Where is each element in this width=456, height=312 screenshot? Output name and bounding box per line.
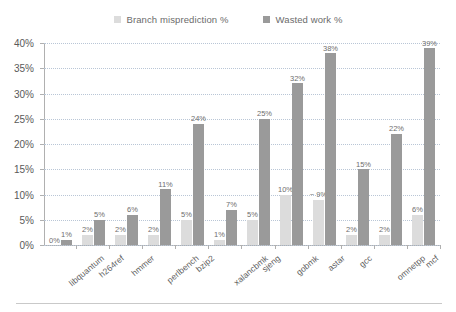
bar-branch-misprediction[interactable]: 6%	[412, 215, 423, 245]
bar-wasted-work[interactable]: 25%	[259, 119, 270, 245]
bar-value-label: 6%	[412, 206, 423, 214]
bar-series-container: 0%1%2%5%2%6%2%11%5%24%1%7%5%25%10%32%~ 9…	[44, 43, 440, 245]
bar-group: 0%1%	[44, 43, 77, 245]
bar-group: 10%32%	[275, 43, 308, 245]
y-axis-tick-label: 20%	[14, 139, 34, 150]
bar-wasted-work[interactable]: 38%	[325, 53, 336, 245]
bar-value-label: 11%	[158, 181, 172, 189]
y-axis-tick-label: 40%	[14, 38, 34, 49]
bar-group: 2%11%	[143, 43, 176, 245]
bar-wasted-work[interactable]: 7%	[226, 210, 237, 245]
bar-value-label: 2%	[148, 226, 159, 234]
y-axis-tick-label: 15%	[14, 164, 34, 175]
bar-value-label: 5%	[94, 211, 105, 219]
y-axis-tick-label: 30%	[14, 88, 34, 99]
bar-chart: Branch misprediction % Wasted work % 0%5…	[0, 0, 456, 312]
bar-group: 5%24%	[176, 43, 209, 245]
bar-value-label: 2%	[115, 226, 126, 234]
bar-group: ~ 9%38%	[308, 43, 341, 245]
bar-wasted-work[interactable]: 5%	[94, 220, 105, 245]
bar-wasted-work[interactable]: 24%	[193, 124, 204, 245]
x-axis-label-cell: libquantum	[44, 250, 77, 306]
bar-group: 6%39%	[407, 43, 440, 245]
bar-branch-misprediction[interactable]: ~ 9%	[313, 200, 324, 245]
bar-wasted-work[interactable]: 22%	[391, 134, 402, 245]
x-axis-label-cell: omnetpp	[375, 250, 408, 306]
x-axis-label-cell: mcf	[408, 250, 441, 306]
x-axis-label-cell: bzip2	[176, 250, 209, 306]
x-axis-label-cell: perlbench	[143, 250, 176, 306]
plot-area: 0%1%2%5%2%6%2%11%5%24%1%7%5%25%10%32%~ 9…	[44, 43, 440, 245]
bar-branch-misprediction[interactable]: 5%	[181, 220, 192, 245]
bar-branch-misprediction[interactable]: 2%	[148, 235, 159, 245]
y-axis-labels: 0%5%10%15%20%25%30%35%40%	[0, 43, 40, 245]
bottom-divider	[16, 303, 442, 304]
x-axis-label-cell: gobmk	[276, 250, 309, 306]
bar-group: 2%5%	[77, 43, 110, 245]
x-axis-label-cell: gcc	[342, 250, 375, 306]
x-axis-category-label: mcf	[424, 253, 441, 270]
bar-group: 2%15%	[341, 43, 374, 245]
y-axis-tick-label: 5%	[20, 214, 34, 225]
bar-value-label: 25%	[257, 110, 272, 118]
bar-group: 2%22%	[374, 43, 407, 245]
bar-value-label: 39%	[422, 40, 437, 48]
legend-label-branch-misprediction: Branch misprediction %	[127, 14, 229, 25]
bar-value-label: 15%	[356, 161, 371, 169]
bar-value-label: 2%	[346, 226, 357, 234]
bar-branch-misprediction[interactable]: 2%	[379, 235, 390, 245]
bar-wasted-work[interactable]: 11%	[160, 189, 171, 245]
legend-label-wasted-work: Wasted work %	[276, 14, 343, 25]
bar-branch-misprediction[interactable]: 2%	[82, 235, 93, 245]
bar-value-label: 7%	[226, 201, 237, 209]
x-axis-label-cell: hmmer	[110, 250, 143, 306]
bar-value-label: 1%	[214, 231, 225, 239]
bar-wasted-work[interactable]: 32%	[292, 83, 303, 245]
bar-value-label: 2%	[82, 226, 93, 234]
x-axis-category-label: gcc	[357, 253, 374, 269]
y-axis-tick-label: 0%	[20, 240, 34, 251]
bar-branch-misprediction[interactable]: 10%	[280, 195, 291, 246]
x-axis-label-cell: h264ref	[77, 250, 110, 306]
bar-value-label: 5%	[181, 211, 192, 219]
bar-wasted-work[interactable]: 6%	[127, 215, 138, 245]
bar-group: 2%6%	[110, 43, 143, 245]
bar-branch-misprediction[interactable]: 5%	[247, 220, 258, 245]
y-axis-tick-label: 25%	[14, 113, 34, 124]
bar-value-label: 22%	[389, 125, 404, 133]
x-axis-labels: libquantumh264refhmmerperlbenchbzip2xala…	[44, 250, 441, 306]
legend-item-branch-misprediction: Branch misprediction %	[114, 14, 229, 25]
bar-value-label: 38%	[323, 45, 338, 53]
bar-wasted-work[interactable]: 15%	[358, 169, 369, 245]
bar-branch-misprediction[interactable]: 2%	[115, 235, 126, 245]
bar-value-label: 10%	[278, 186, 293, 194]
bar-value-label: 2%	[379, 226, 390, 234]
bar-group: 1%7%	[209, 43, 242, 245]
y-axis-tick-label: 10%	[14, 189, 34, 200]
bar-value-label: 32%	[290, 75, 305, 83]
legend-item-wasted-work: Wasted work %	[263, 14, 343, 25]
bar-group: 5%25%	[242, 43, 275, 245]
legend-swatch-wasted-work	[263, 16, 270, 23]
bar-branch-misprediction[interactable]: 2%	[346, 235, 357, 245]
legend-swatch-branch-misprediction	[114, 16, 121, 23]
bar-wasted-work[interactable]: 39%	[424, 48, 435, 245]
bar-value-label: 1%	[61, 231, 72, 239]
y-axis-tick-label: 35%	[14, 63, 34, 74]
bar-value-label: 0%	[49, 237, 60, 245]
x-axis-label-cell: astar	[309, 250, 342, 306]
chart-legend: Branch misprediction % Wasted work %	[0, 14, 456, 25]
bar-value-label: 24%	[191, 115, 206, 123]
x-axis-label-cell: sjeng	[242, 250, 275, 306]
bar-value-label: 6%	[127, 206, 138, 214]
x-axis-label-cell: xalancbmk	[209, 250, 242, 306]
bar-value-label: 5%	[247, 211, 258, 219]
